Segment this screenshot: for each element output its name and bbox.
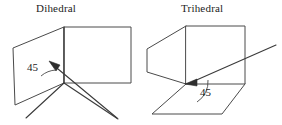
trihedral-front-face-rectangle — [186, 26, 245, 84]
trihedral-top-face — [147, 26, 186, 84]
geometry-figure-root: Dihedral Trihedral 45 45 — [0, 0, 282, 125]
dihedral-angle-arc — [41, 70, 56, 76]
trihedral-panel — [147, 26, 276, 114]
dihedral-panel — [13, 27, 131, 119]
trihedral-title: Trihedral — [181, 2, 223, 14]
dihedral-title: Dihedral — [36, 2, 76, 14]
dihedral-ray-lower-left — [26, 83, 64, 118]
trihedral-angle-label: 45 — [200, 86, 211, 98]
dihedral-arrow-shaft — [52, 64, 117, 118]
trihedral-arrowhead-icon — [185, 79, 197, 86]
figure-canvas — [0, 0, 282, 125]
dihedral-front-face-rectangle — [64, 27, 131, 83]
trihedral-arrow-shaft — [192, 45, 276, 82]
trihedral-floor-face-parallelogram — [152, 84, 245, 114]
dihedral-ray-lower-right — [64, 83, 118, 119]
dihedral-angle-label: 45 — [27, 61, 38, 73]
